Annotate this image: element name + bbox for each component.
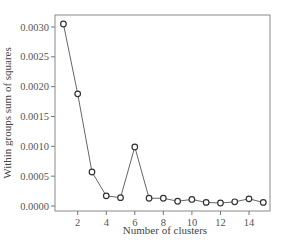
y-tick-label: 0.0005 xyxy=(20,171,49,182)
x-tick-label: 4 xyxy=(104,217,110,228)
data-point-marker xyxy=(75,91,81,97)
data-point-marker xyxy=(175,198,181,204)
data-point-marker xyxy=(203,200,209,206)
data-series xyxy=(61,21,266,206)
data-point-marker xyxy=(118,195,124,201)
data-point-marker xyxy=(260,200,266,206)
plot-frame xyxy=(55,15,270,211)
y-tick-label: 0.0000 xyxy=(20,201,49,212)
data-point-marker xyxy=(218,200,224,206)
y-axis: 0.00000.00050.00100.00150.00200.00250.00… xyxy=(20,22,55,212)
y-tick-label: 0.0030 xyxy=(20,22,49,33)
y-tick-label: 0.0010 xyxy=(20,141,49,152)
data-point-marker xyxy=(161,195,167,201)
x-tick-label: 12 xyxy=(215,217,226,228)
y-tick-label: 0.0015 xyxy=(20,111,49,122)
x-tick-label: 14 xyxy=(244,217,255,228)
data-point-marker xyxy=(61,21,67,27)
data-point-marker xyxy=(232,199,238,205)
x-tick-label: 2 xyxy=(75,217,80,228)
y-tick-label: 0.0025 xyxy=(20,51,49,62)
data-point-marker xyxy=(89,169,95,175)
x-axis-label: Number of clusters xyxy=(123,224,207,236)
y-axis-label: Within groups sum of squares xyxy=(1,47,13,179)
data-point-marker xyxy=(189,197,195,203)
data-point-marker xyxy=(132,144,138,150)
y-tick-label: 0.0020 xyxy=(20,81,49,92)
chart: 0.00000.00050.00100.00150.00200.00250.00… xyxy=(0,0,282,247)
data-point-marker xyxy=(246,196,252,202)
data-point-marker xyxy=(146,195,152,201)
data-point-marker xyxy=(103,193,109,199)
